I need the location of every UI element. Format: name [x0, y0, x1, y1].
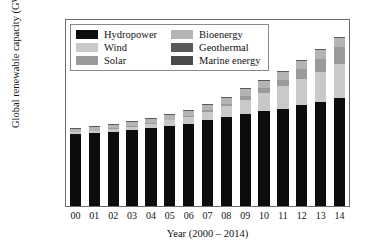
legend-swatch-hydropower	[76, 30, 98, 39]
bar-06	[183, 110, 194, 206]
x-axis-title: Year (2000 – 2014)	[65, 228, 350, 239]
y-axis-title: Global renewable capacity (GW)	[10, 0, 21, 149]
legend-swatch-geothermal	[171, 43, 193, 52]
bar-09	[240, 88, 251, 206]
bar-segment-hydropower-00	[70, 134, 81, 206]
bar-segment-hydropower-03	[126, 130, 137, 206]
figure: Global renewable capacity (GW) Year (200…	[0, 0, 367, 252]
bar-segment-bioenergy-14	[334, 38, 345, 47]
bar-segment-bioenergy-13	[315, 50, 326, 59]
bar-segment-hydropower-02	[108, 132, 119, 206]
bar-13	[315, 49, 326, 206]
bar-14	[334, 37, 345, 206]
bar-08	[221, 97, 232, 206]
legend-swatch-solar	[76, 56, 98, 65]
bar-00	[70, 128, 81, 206]
bar-segment-solar-13	[315, 59, 326, 72]
bar-segment-wind-08	[221, 106, 232, 117]
bar-segment-wind-09	[240, 100, 251, 115]
bar-segment-hydropower-10	[258, 111, 269, 206]
bar-segment-hydropower-04	[145, 128, 156, 206]
bar-segment-wind-07	[202, 112, 213, 121]
bar-segment-hydropower-08	[221, 117, 232, 206]
bar-segment-hydropower-13	[315, 102, 326, 206]
bar-segment-wind-13	[315, 72, 326, 102]
legend-label-wind: Wind	[104, 42, 159, 53]
legend-swatch-bioenergy	[171, 30, 193, 39]
bar-segment-wind-11	[277, 86, 288, 108]
bar-segment-hydropower-11	[277, 109, 288, 206]
bar-02	[108, 124, 119, 206]
bar-segment-bioenergy-10	[258, 81, 269, 88]
bar-segment-bioenergy-11	[277, 72, 288, 80]
x-tick-label-14: 14	[325, 210, 355, 221]
bar-segment-wind-06	[183, 117, 194, 124]
bar-segment-hydropower-01	[89, 133, 100, 206]
bar-segment-hydropower-09	[240, 114, 251, 206]
bar-07	[202, 104, 213, 206]
legend-label-hydropower: Hydropower	[104, 29, 159, 40]
bar-01	[89, 126, 100, 206]
bar-03	[126, 121, 137, 206]
bar-segment-hydropower-05	[164, 126, 175, 206]
bar-segment-wind-14	[334, 64, 345, 98]
bar-segment-wind-10	[258, 93, 269, 111]
bar-04	[145, 118, 156, 206]
legend-label-geothermal: Geothermal	[199, 42, 262, 53]
chart-legend: HydropowerBioenergyWindGeothermalSolarMa…	[70, 24, 269, 71]
bar-05	[164, 114, 175, 206]
bar-segment-wind-12	[296, 79, 307, 105]
bar-segment-bioenergy-12	[296, 61, 307, 69]
legend-swatch-marine-energy	[171, 56, 193, 65]
bar-segment-hydropower-14	[334, 98, 345, 206]
bar-10	[258, 80, 269, 206]
bar-segment-solar-12	[296, 69, 307, 79]
legend-swatch-wind	[76, 43, 98, 52]
legend-label-bioenergy: Bioenergy	[199, 29, 262, 40]
bar-segment-hydropower-06	[183, 124, 194, 206]
bar-segment-hydropower-12	[296, 105, 307, 206]
legend-label-marine-energy: Marine energy	[199, 55, 262, 66]
bar-segment-solar-11	[277, 80, 288, 87]
legend-label-solar: Solar	[104, 55, 159, 66]
bar-12	[296, 60, 307, 206]
bar-11	[277, 71, 288, 206]
bar-segment-hydropower-07	[202, 120, 213, 206]
bar-segment-solar-14	[334, 47, 345, 64]
